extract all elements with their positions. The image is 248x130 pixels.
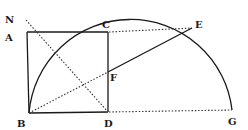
segment-b-f: [29, 72, 108, 113]
label-c: C: [102, 19, 110, 30]
label-n: N: [5, 14, 14, 25]
segment-n-d: [26, 20, 108, 112]
segment-b-d: [29, 112, 108, 113]
label-d: D: [104, 118, 113, 129]
geometry-diagram: N A C E F B D G: [0, 0, 248, 130]
label-e: E: [195, 19, 203, 30]
segment-f-e: [108, 28, 192, 72]
segment-d-g: [109, 110, 232, 112]
label-a: A: [4, 32, 13, 43]
label-f: F: [110, 72, 117, 83]
label-g: G: [228, 116, 237, 127]
semicircle-arc: [29, 19, 232, 113]
label-b: B: [17, 118, 25, 129]
segment-a-b: [27, 32, 29, 113]
